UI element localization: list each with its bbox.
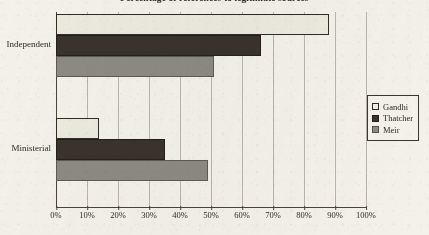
x-tick-label: 40% bbox=[172, 210, 188, 220]
x-tick-mark bbox=[211, 206, 212, 210]
thatcher-swatch bbox=[372, 115, 379, 122]
bar-gandhi-ministerial[interactable] bbox=[56, 118, 99, 139]
meir-swatch bbox=[372, 126, 379, 133]
x-tick-label: 80% bbox=[296, 210, 312, 220]
x-tick-mark bbox=[366, 206, 367, 210]
x-tick-label: 20% bbox=[110, 210, 126, 220]
bar-group-ministerial: Ministerial bbox=[56, 118, 366, 181]
bar-group-independent: Independent bbox=[56, 14, 366, 77]
plot-area: IndependentMinisterial bbox=[56, 12, 366, 208]
legend-item-thatcher[interactable]: Thatcher bbox=[372, 113, 413, 123]
x-tick-label: 90% bbox=[327, 210, 343, 220]
x-tick-mark bbox=[149, 206, 150, 210]
legend-item-label: Gandhi bbox=[383, 102, 408, 112]
legend-item-label: Meir bbox=[383, 125, 400, 135]
y-category-label-ministerial: Ministerial bbox=[12, 143, 52, 153]
x-tick-mark bbox=[273, 206, 274, 210]
y-category-label-independent: Independent bbox=[7, 39, 51, 49]
bar-gandhi-independent[interactable] bbox=[56, 14, 329, 35]
x-tick-label: 60% bbox=[234, 210, 250, 220]
legend-item-gandhi[interactable]: Gandhi bbox=[372, 102, 413, 112]
x-tick-label: 0% bbox=[50, 210, 61, 220]
x-tick-mark bbox=[180, 206, 181, 210]
x-tick-mark bbox=[242, 206, 243, 210]
x-tick-mark bbox=[118, 206, 119, 210]
x-axis-ticks: 0%10%20%30%40%50%60%70%80%90%100% bbox=[56, 210, 366, 226]
bar-meir-ministerial[interactable] bbox=[56, 160, 208, 181]
x-tick-mark bbox=[56, 206, 57, 210]
x-tick-label: 100% bbox=[356, 210, 376, 220]
x-tick-label: 30% bbox=[141, 210, 157, 220]
x-tick-mark bbox=[304, 206, 305, 210]
legend-item-meir[interactable]: Meir bbox=[372, 125, 413, 135]
x-tick-label: 10% bbox=[79, 210, 95, 220]
chart-title: Percentage of references to legitimate s… bbox=[0, 0, 429, 3]
chart-legend: GandhiThatcherMeir bbox=[367, 95, 419, 141]
x-tick-mark bbox=[335, 206, 336, 210]
gandhi-swatch bbox=[372, 103, 379, 110]
bar-thatcher-ministerial[interactable] bbox=[56, 139, 165, 160]
x-tick-mark bbox=[87, 206, 88, 210]
legend-item-label: Thatcher bbox=[383, 113, 413, 123]
bar-meir-independent[interactable] bbox=[56, 56, 214, 77]
x-tick-label: 70% bbox=[265, 210, 281, 220]
bar-thatcher-independent[interactable] bbox=[56, 35, 261, 56]
x-tick-label: 50% bbox=[203, 210, 219, 220]
